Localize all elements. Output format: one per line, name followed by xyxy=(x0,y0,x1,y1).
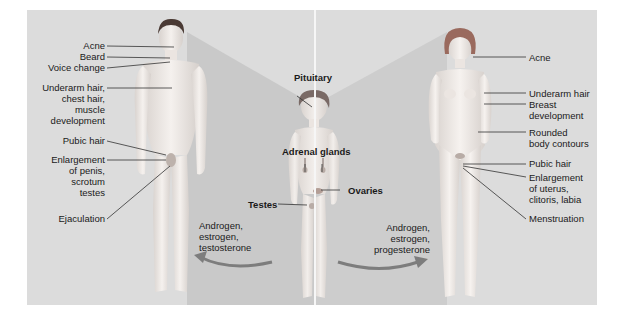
child-label-pituitary: Pituitary xyxy=(294,72,332,83)
label-line: clitoris, labia xyxy=(529,194,583,205)
female-label-underarm-hair: Underarm hair xyxy=(529,88,590,99)
label-line: chest hair, xyxy=(42,93,105,104)
left-arrow xyxy=(200,257,272,266)
female-label-menstruation: Menstruation xyxy=(529,213,584,224)
child-label-adrenal-glands: Adrenal glands xyxy=(282,146,351,157)
female-label-rounded-body-contours: Rounded body contours xyxy=(529,127,589,149)
label-line: Underarm hair, xyxy=(42,82,105,93)
female-label-acne: Acne xyxy=(529,52,551,63)
hormone-line: estrogen, xyxy=(374,233,430,244)
male-label-underarm-chest-muscle: Underarm hair, chest hair, muscle develo… xyxy=(42,82,105,126)
label-line: development xyxy=(42,115,105,126)
hormone-line: progesterone xyxy=(374,244,430,255)
male-label-acne: Acne xyxy=(83,40,105,51)
male-label-enlargement: Enlargement of penis, scrotum testes xyxy=(51,154,105,198)
label-line: of penis, xyxy=(51,165,105,176)
female-label-enlargement: Enlargement of uterus, clitoris, labia xyxy=(529,172,583,205)
male-label-beard: Beard xyxy=(80,51,105,62)
female-hormones: Androgen, estrogen, progesterone xyxy=(374,222,430,255)
male-label-voice-change: Voice change xyxy=(48,62,105,73)
right-arrow xyxy=(338,262,418,269)
label-line: scrotum xyxy=(51,176,105,187)
male-hormones: Androgen, estrogen, testosterone xyxy=(199,220,251,253)
female-label-pubic-hair: Pubic hair xyxy=(529,158,571,169)
label-line: Enlargement xyxy=(529,172,583,183)
label-line: development xyxy=(529,110,583,121)
child-label-ovaries: Ovaries xyxy=(348,185,383,196)
female-label-breast-development: Breast development xyxy=(529,99,583,121)
label-line: Breast xyxy=(529,99,583,110)
label-line: Enlargement xyxy=(51,154,105,165)
label-line: Rounded xyxy=(529,127,589,138)
male-label-pubic-hair: Pubic hair xyxy=(63,135,105,146)
hormone-line: Androgen, xyxy=(374,222,430,233)
hormone-line: estrogen, xyxy=(199,231,251,242)
label-line: muscle xyxy=(42,104,105,115)
label-line: testes xyxy=(51,187,105,198)
hormone-line: testosterone xyxy=(199,242,251,253)
male-label-ejaculation: Ejaculation xyxy=(59,213,105,224)
label-line: body contours xyxy=(529,138,589,149)
hormone-line: Androgen, xyxy=(199,220,251,231)
label-line: of uterus, xyxy=(529,183,583,194)
child-label-testes: Testes xyxy=(248,199,277,210)
